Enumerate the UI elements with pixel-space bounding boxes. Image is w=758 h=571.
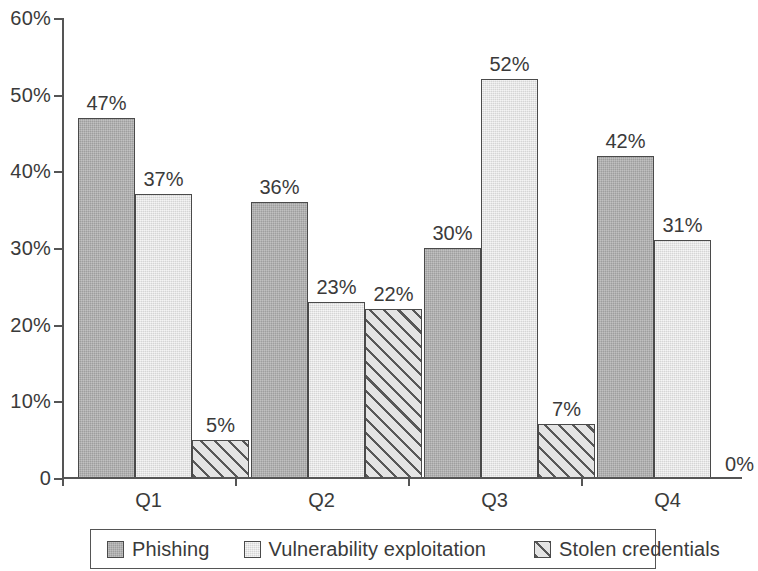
- legend-item-stolen-credentials[interactable]: Stolen credentials: [534, 538, 720, 561]
- bar[interactable]: 42%: [597, 156, 654, 478]
- legend-item-label: Phishing: [132, 538, 210, 561]
- y-axis-tick-label: 0: [40, 467, 51, 490]
- legend-item-phishing[interactable]: Phishing: [107, 538, 210, 561]
- bar-value-label: 0%: [725, 453, 754, 476]
- bar-group: 42%31%0%: [581, 18, 754, 478]
- bar[interactable]: 47%: [78, 118, 135, 478]
- y-axis-tick-label: 30%: [10, 237, 51, 260]
- y-axis-tick-mark: [54, 478, 62, 480]
- bar-value-label: 23%: [316, 276, 356, 299]
- bar-value-label: 5%: [206, 414, 235, 437]
- bar-group: 36%23%22%: [235, 18, 408, 478]
- bar-value-label: 30%: [432, 222, 472, 245]
- legend-swatch-icon: [534, 541, 551, 558]
- y-axis-tick-mark: [54, 401, 62, 403]
- bar[interactable]: 31%: [654, 240, 711, 478]
- bar-value-label: 7%: [552, 398, 581, 421]
- legend-swatch-icon: [244, 541, 261, 558]
- legend-item-label: Vulnerability exploitation: [269, 538, 487, 561]
- x-axis-tick-mark: [581, 477, 583, 486]
- bar-value-label: 37%: [143, 168, 183, 191]
- plot-area: 47%37%5%36%23%22%30%52%7%42%31%0%: [62, 18, 745, 478]
- bar-value-label: 47%: [86, 92, 126, 115]
- x-axis-category-label: Q2: [308, 489, 335, 512]
- bar-group: 47%37%5%: [62, 18, 235, 478]
- y-axis-tick-label: 40%: [10, 160, 51, 183]
- y-axis-tick-mark: [54, 325, 62, 327]
- bar-value-label: 36%: [259, 176, 299, 199]
- legend-item-label: Stolen credentials: [559, 538, 720, 561]
- bar[interactable]: 36%: [251, 202, 308, 478]
- y-axis-tick-label: 10%: [10, 390, 51, 413]
- bar[interactable]: 23%: [308, 302, 365, 478]
- x-axis-category-label: Q4: [654, 489, 681, 512]
- bar-group: 30%52%7%: [408, 18, 581, 478]
- x-axis-category-label: Q3: [481, 489, 508, 512]
- bar[interactable]: 52%: [481, 79, 538, 478]
- x-axis-tick-mark: [235, 477, 237, 486]
- x-axis-tick-mark: [408, 477, 410, 486]
- legend-swatch-icon: [107, 541, 124, 558]
- bar-value-label: 42%: [605, 130, 645, 153]
- chart-legend: PhishingVulnerability exploitationStolen…: [90, 529, 656, 569]
- bar[interactable]: 37%: [135, 194, 192, 478]
- y-axis-tick-mark: [54, 248, 62, 250]
- y-axis-tick-mark: [54, 171, 62, 173]
- legend-item-vulnerability-exploitation[interactable]: Vulnerability exploitation: [244, 538, 487, 561]
- y-axis-tick-mark: [54, 18, 62, 20]
- x-axis-line: [62, 477, 742, 479]
- bar[interactable]: 30%: [424, 248, 481, 478]
- x-axis-tick-mark: [62, 477, 64, 486]
- bar-value-label: 31%: [662, 214, 702, 237]
- y-axis-tick-mark: [54, 95, 62, 97]
- y-axis-tick-label: 50%: [10, 83, 51, 106]
- x-axis-category-label: Q1: [135, 489, 162, 512]
- bar-value-label: 52%: [489, 53, 529, 76]
- y-axis-tick-label: 20%: [10, 313, 51, 336]
- y-axis-tick-label: 60%: [10, 7, 51, 30]
